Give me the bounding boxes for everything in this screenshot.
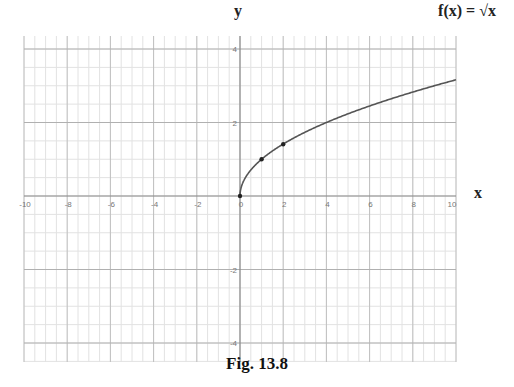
svg-text:-4: -4 <box>230 339 238 348</box>
svg-text:-2: -2 <box>194 200 202 209</box>
svg-text:-8: -8 <box>65 200 73 209</box>
svg-text:10: 10 <box>448 200 457 209</box>
svg-text:8: 8 <box>412 200 417 209</box>
svg-text:2: 2 <box>233 119 238 128</box>
svg-text:4: 4 <box>233 45 238 54</box>
svg-text:-6: -6 <box>108 200 116 209</box>
svg-text:-2: -2 <box>230 266 238 275</box>
data-point <box>259 157 263 161</box>
svg-text:4: 4 <box>325 200 330 209</box>
figure-caption: Fig. 13.8 <box>0 354 514 374</box>
svg-text:-10: -10 <box>19 200 31 209</box>
svg-text:6: 6 <box>368 200 373 209</box>
svg-text:0: 0 <box>239 200 244 209</box>
plot-area: -10-8-6-4-20246810-4-224 <box>0 0 514 387</box>
data-point <box>281 142 285 146</box>
svg-text:2: 2 <box>282 200 287 209</box>
svg-text:-4: -4 <box>151 200 159 209</box>
data-point <box>238 194 242 198</box>
